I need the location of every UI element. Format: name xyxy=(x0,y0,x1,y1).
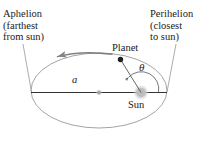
orbit-diagram: Aphelion (farthest from sun) Perihelion … xyxy=(0,0,203,143)
planet-dot xyxy=(118,57,123,62)
leader-line-perihelion xyxy=(167,44,176,92)
ellipse-center-core xyxy=(98,91,101,94)
leader-line-aphelion xyxy=(23,44,32,92)
perihelion-label-line1: Perihelion xyxy=(150,8,193,20)
sun-planet-radius-line xyxy=(121,60,142,93)
angle-theta-label: θ xyxy=(139,61,144,73)
perihelion-label: Perihelion (closest to sun) xyxy=(150,8,193,43)
planet-label: Planet xyxy=(112,42,138,54)
aphelion-label-line3: from sun) xyxy=(3,31,44,43)
orbit-direction-arrow-icon xyxy=(58,53,113,57)
sun-label: Sun xyxy=(128,99,144,111)
aphelion-label: Aphelion (farthest from sun) xyxy=(3,8,44,43)
perihelion-label-line2: (closest xyxy=(150,20,193,32)
perihelion-label-line3: to sun) xyxy=(150,31,193,43)
semimajor-axis-label: a xyxy=(72,74,77,85)
aphelion-label-line1: Aphelion xyxy=(3,8,44,20)
aphelion-label-line2: (farthest xyxy=(3,20,44,32)
